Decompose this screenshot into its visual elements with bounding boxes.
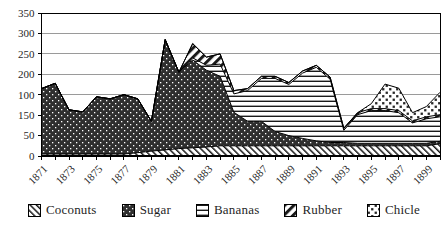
x-axis-labels: 1871187318751877187918811883188518871889… [26, 162, 435, 186]
legend-swatch-coconuts [28, 204, 41, 217]
svg-text:1885: 1885 [218, 162, 242, 186]
legend-item-bananas: Bananas [196, 202, 259, 218]
svg-text:1877: 1877 [108, 162, 132, 186]
svg-text:200: 200 [18, 68, 35, 80]
legend-label-bananas: Bananas [214, 202, 259, 218]
svg-text:1889: 1889 [273, 162, 297, 186]
svg-text:1879: 1879 [135, 162, 159, 186]
svg-text:1899: 1899 [410, 162, 434, 186]
y-ticks [38, 13, 42, 156]
svg-text:1891: 1891 [300, 163, 324, 187]
svg-text:1893: 1893 [328, 162, 352, 186]
svg-text:1887: 1887 [245, 162, 269, 186]
legend-item-rubber: Rubber [284, 202, 341, 218]
legend-item-sugar: Sugar [122, 202, 171, 218]
svg-text:1883: 1883 [190, 162, 214, 186]
chart-legend: CoconutsSugarBananasRubberChicle [0, 199, 448, 221]
svg-text:300: 300 [18, 27, 35, 39]
svg-text:1875: 1875 [81, 162, 105, 186]
svg-text:100: 100 [18, 89, 35, 101]
legend-swatch-rubber [284, 204, 297, 217]
stacked-area-chart: 3503002502001001505001871187318751877187… [0, 0, 448, 227]
svg-text:1873: 1873 [53, 162, 77, 186]
legend-swatch-chicle [367, 204, 380, 217]
svg-text:350: 350 [18, 7, 35, 19]
x-ticks [42, 157, 441, 160]
legend-swatch-sugar [122, 204, 135, 217]
y-axis-labels: 350300250200100150500 [18, 7, 35, 162]
svg-text:150: 150 [18, 109, 35, 121]
legend-label-chicle: Chicle [385, 202, 420, 218]
svg-text:0: 0 [29, 150, 35, 162]
svg-text:250: 250 [18, 48, 35, 60]
legend-label-sugar: Sugar [140, 202, 171, 218]
svg-text:1895: 1895 [355, 162, 379, 186]
legend-item-chicle: Chicle [367, 202, 420, 218]
legend-swatch-bananas [196, 204, 209, 217]
plot-svg: 3503002502001001505001871187318751877187… [0, 0, 448, 198]
svg-text:1881: 1881 [163, 163, 187, 187]
legend-item-coconuts: Coconuts [28, 202, 97, 218]
legend-label-coconuts: Coconuts [46, 202, 97, 218]
svg-text:1871: 1871 [26, 163, 50, 187]
legend-label-rubber: Rubber [302, 202, 341, 218]
svg-text:50: 50 [24, 129, 36, 141]
svg-text:1897: 1897 [383, 162, 407, 186]
